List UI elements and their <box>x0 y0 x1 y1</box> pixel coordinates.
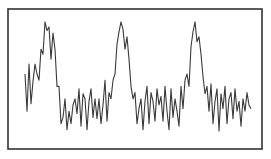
line-chart <box>0 0 271 159</box>
chart-frame <box>8 9 262 149</box>
signal-line <box>25 22 251 131</box>
